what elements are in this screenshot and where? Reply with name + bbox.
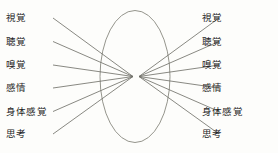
left-modality-column: 視覚 聴覚 嗅覚 感情 身体感覚 思考 bbox=[6, 0, 76, 153]
right-modality-column: 視覚 聴覚 嗅覚 感情 身体感覚 思考 bbox=[202, 0, 272, 153]
right-label-shikou: 思考 bbox=[202, 129, 222, 139]
right-label-kyuukaku: 嗅覚 bbox=[202, 60, 222, 70]
left-label-shintaikankaku: 身体感覚 bbox=[6, 107, 47, 117]
left-label-shikou: 思考 bbox=[6, 129, 26, 139]
diagram-canvas: 視覚 聴覚 嗅覚 感情 身体感覚 思考 視覚 聴覚 嗅覚 感情 身体感覚 思考 bbox=[0, 0, 278, 153]
left-label-kyuukaku: 嗅覚 bbox=[6, 60, 26, 70]
right-label-kanjou: 感情 bbox=[202, 83, 222, 93]
left-label-choukaku: 聴覚 bbox=[6, 37, 26, 47]
right-label-shintaikankaku: 身体感覚 bbox=[202, 107, 243, 117]
central-ellipse bbox=[100, 11, 170, 143]
left-label-shikaku: 視覚 bbox=[6, 13, 26, 23]
right-label-choukaku: 聴覚 bbox=[202, 37, 222, 47]
right-label-shikaku: 視覚 bbox=[202, 13, 222, 23]
left-label-kanjou: 感情 bbox=[6, 83, 26, 93]
